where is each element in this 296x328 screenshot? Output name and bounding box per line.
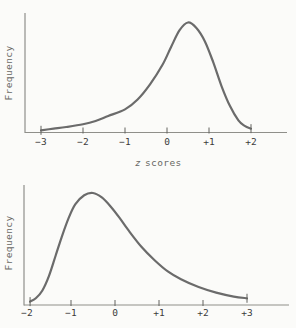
x-tick-label: −2	[77, 136, 88, 147]
skewed-distributions-figure: −3−2−10+1+2Frequencyzscores−2−10+1+2+3Fr…	[0, 0, 296, 328]
x-tick-label: +1	[203, 136, 215, 147]
x-tick-label: +1	[153, 307, 165, 318]
x-tick-label: +2	[197, 307, 208, 318]
x-tick-label: −2	[21, 307, 32, 318]
x-tick-label: −1	[65, 307, 77, 318]
x-axis-label-text: scores	[145, 157, 182, 168]
x-tick-label: −1	[119, 136, 131, 147]
x-tick-label: 0	[164, 136, 170, 147]
x-tick-label: −3	[35, 136, 46, 147]
x-tick-label: 0	[112, 307, 118, 318]
distribution-curve	[41, 22, 251, 130]
x-axis-label-variable: z	[135, 157, 141, 168]
x-tick-label: +2	[245, 136, 256, 147]
y-axis-label: Frequency	[3, 215, 14, 270]
figure-canvas: −3−2−10+1+2Frequencyzscores−2−10+1+2+3Fr…	[0, 0, 296, 328]
distribution-curve	[30, 193, 247, 302]
x-tick-label: +3	[241, 307, 252, 318]
y-axis-label: Frequency	[3, 45, 14, 100]
